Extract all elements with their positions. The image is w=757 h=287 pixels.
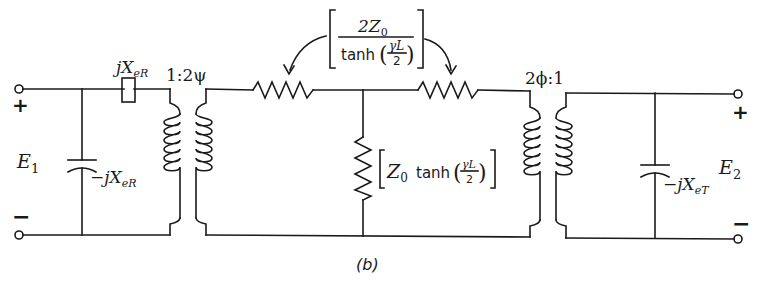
output-voltage-label: E2 — [718, 156, 741, 182]
input-shunt-capacitor — [68, 89, 96, 235]
svg-text:2: 2 — [393, 54, 401, 68]
input-shunt-reactance-label: −jXeR — [90, 167, 136, 190]
transformer-right-ratio: 2ϕ:1 — [525, 68, 564, 88]
transformer-left — [164, 89, 212, 235]
output-plus-sign: + — [732, 100, 749, 124]
svg-text:(: ( — [379, 42, 388, 67]
svg-text:tanh: tanh — [416, 164, 450, 182]
equivalent-circuit-diagram: + − E1 jXeR −jXeR 1:2ψ — [0, 0, 757, 287]
input-terminal-bottom[interactable] — [15, 231, 23, 239]
svg-text:γL: γL — [462, 158, 476, 171]
svg-text:): ) — [478, 160, 487, 185]
figure-caption: (b) — [356, 255, 379, 274]
svg-text:2Z0: 2Z0 — [357, 16, 388, 39]
svg-text:): ) — [406, 42, 415, 67]
input-minus-sign: − — [12, 204, 30, 229]
input-wires — [23, 89, 170, 235]
series-reactance-element — [122, 78, 135, 102]
output-terminal-top[interactable] — [734, 90, 742, 98]
series-resistor-left — [253, 82, 313, 98]
transformer-right — [524, 91, 572, 238]
series-arm-impedance-label: 2Z0 tanh ( γL 2 ) — [330, 10, 423, 68]
svg-text:(: ( — [453, 160, 462, 185]
input-terminal-top[interactable] — [15, 85, 23, 93]
series-resistor-right — [418, 82, 478, 98]
input-voltage-label: E1 — [16, 150, 39, 176]
svg-text:Z0: Z0 — [386, 160, 408, 185]
svg-text:γL: γL — [389, 39, 404, 53]
shunt-resistor — [355, 137, 371, 200]
svg-text:tanh: tanh — [341, 46, 375, 64]
svg-text:2: 2 — [466, 173, 473, 186]
output-minus-sign: − — [732, 211, 750, 236]
transformer-left-ratio: 1:2ψ — [166, 65, 207, 85]
shunt-arm-impedance-label: Z0 tanh ( γL 2 ) — [380, 150, 495, 188]
output-terminal-bottom[interactable] — [734, 235, 742, 243]
output-wires — [566, 93, 734, 239]
input-plus-sign: + — [12, 93, 29, 117]
output-shunt-capacitor — [641, 93, 669, 238]
output-shunt-reactance-label: −jXeT — [663, 174, 710, 197]
series-reactance-label: jXeR — [112, 57, 148, 80]
